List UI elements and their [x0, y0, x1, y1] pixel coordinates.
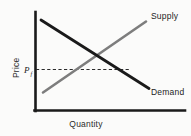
chart-canvas: Supply Demand P f Price Quantity [0, 0, 191, 136]
supply-demand-chart-figure: Supply Demand P f Price Quantity [0, 0, 191, 136]
price-floor-tick-label: P [23, 65, 30, 75]
y-axis-title: Price [11, 58, 21, 78]
demand-series-label: Demand [151, 87, 184, 97]
supply-series-label: Supply [151, 11, 179, 21]
x-axis-title: Quantity [69, 119, 103, 129]
